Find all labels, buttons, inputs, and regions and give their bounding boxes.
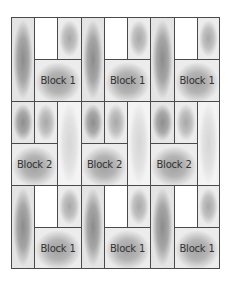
row1-group1-tall-bar (11, 17, 35, 102)
row3-block-3: Block 1 (174, 227, 220, 269)
row2-block-1: Block 2 (11, 143, 58, 186)
block-label: Block 1 (110, 243, 145, 254)
row1-group2-small-gray (127, 17, 151, 60)
row1-group3-small-gray (197, 17, 220, 60)
row1-group1-small-gray (57, 17, 82, 60)
row1-group1-small-white (34, 17, 58, 60)
row2-block-3: Block 2 (150, 143, 198, 186)
row3-group1-small-gray (57, 185, 82, 228)
row3-group2-small-gray (127, 185, 151, 228)
row2-group2-tall-bar (127, 101, 151, 186)
row2-group1-small-dark (11, 101, 35, 144)
block-label: Block 1 (40, 75, 75, 86)
row1-group2-tall-bar (81, 17, 105, 102)
row1-group2-small-white (104, 17, 128, 60)
row2-group3-tall-bar (197, 101, 220, 186)
row1-block-3: Block 1 (174, 59, 220, 102)
row3-group1-small-white (34, 185, 58, 228)
row1-group3-small-white (174, 17, 198, 60)
row3-group1-tall-bar (11, 185, 35, 269)
row3-group2-tall-bar (81, 185, 105, 269)
block-label: Block 2 (156, 159, 191, 170)
row3-group2-small-white (104, 185, 128, 228)
row2-group1-small-gray (34, 101, 58, 144)
row2-group3-small-gray (174, 101, 198, 144)
row3-group3-tall-bar (150, 185, 175, 269)
row3-group3-small-white (174, 185, 198, 228)
row3-group3-small-gray (197, 185, 220, 228)
block-label: Block 1 (179, 243, 214, 254)
row1-block-1: Block 1 (34, 59, 82, 102)
block-label: Block 2 (17, 159, 52, 170)
row2-block-2: Block 2 (81, 143, 128, 186)
row3-block-1: Block 1 (34, 227, 82, 269)
block-label: Block 1 (110, 75, 145, 86)
block-label: Block 1 (179, 75, 214, 86)
row1-group3-tall-bar (150, 17, 175, 102)
row2-group2-small-dark (81, 101, 105, 144)
row2-group2-small-gray (104, 101, 128, 144)
row2-group3-small-dark (150, 101, 175, 144)
block-label: Block 1 (40, 243, 75, 254)
block-label: Block 2 (87, 159, 122, 170)
row1-block-2: Block 1 (104, 59, 151, 102)
row2-group1-tall-bar (57, 101, 82, 186)
row3-block-2: Block 1 (104, 227, 151, 269)
